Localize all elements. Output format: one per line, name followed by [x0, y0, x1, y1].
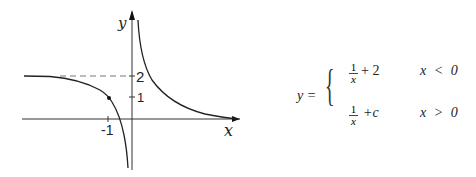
- tick-label-y-2: 2: [136, 68, 144, 85]
- fraction-case2: 1 x: [349, 104, 358, 127]
- case1-condition: x < 0: [420, 63, 458, 79]
- equation-lhs: y =: [297, 88, 316, 104]
- y-axis-arrow-icon: [129, 10, 135, 20]
- y-axis-label: y: [118, 14, 126, 32]
- case2-tail: +c: [363, 105, 379, 121]
- brace: {: [325, 64, 335, 108]
- x-axis-label: x: [224, 121, 233, 140]
- fraction-case1: 1 x: [349, 62, 358, 85]
- curve-right-branch: [138, 20, 238, 119]
- point-neg1-1: [107, 96, 111, 100]
- case2-condition: x > 0: [420, 105, 458, 121]
- tick-label-y-1: 1: [137, 90, 144, 105]
- tick-label-x-neg1: -1: [101, 122, 113, 138]
- case1-tail: + 2: [361, 63, 379, 79]
